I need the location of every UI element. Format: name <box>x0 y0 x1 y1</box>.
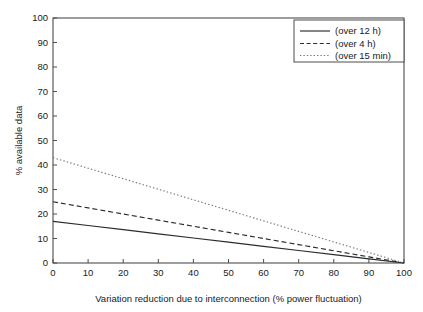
legend: (over 12 h)(over 4 h)(over 15 min) <box>294 20 404 62</box>
x-tick-label: 60 <box>258 267 269 278</box>
y-tick-label: 90 <box>37 37 48 48</box>
x-tick-label: 90 <box>364 267 375 278</box>
y-tick-label: 0 <box>43 257 48 268</box>
y-tick-label: 10 <box>37 233 48 244</box>
y-tick-label: 40 <box>37 159 48 170</box>
x-tick-label: 100 <box>396 267 412 278</box>
y-tick-label: 50 <box>37 135 48 146</box>
line-chart: 0102030405060708090100 01020304050607080… <box>0 0 423 312</box>
x-tick-label: 70 <box>293 267 304 278</box>
x-tick-label: 10 <box>83 267 94 278</box>
y-tick-label: 20 <box>37 208 48 219</box>
x-tick-label: 80 <box>329 267 340 278</box>
chart-figure: 0102030405060708090100 01020304050607080… <box>0 0 423 312</box>
legend-label: (over 12 h) <box>335 25 381 36</box>
series-line-solid <box>53 221 404 263</box>
x-tick-label: 30 <box>153 267 164 278</box>
legend-label: (over 4 h) <box>335 38 376 49</box>
x-axis-ticks: 0102030405060708090100 <box>50 259 412 278</box>
y-tick-label: 80 <box>37 61 48 72</box>
series-line-dashed <box>53 202 404 263</box>
y-axis-title: % available data <box>13 105 24 175</box>
x-tick-label: 50 <box>223 267 234 278</box>
y-tick-label: 100 <box>32 12 48 23</box>
x-axis-title: Variation reduction due to interconnecti… <box>95 293 362 304</box>
legend-label: (over 15 min) <box>335 50 391 61</box>
series-line-dotted <box>53 158 404 263</box>
y-tick-label: 70 <box>37 86 48 97</box>
data-series-group <box>53 158 404 263</box>
y-tick-label: 30 <box>37 184 48 195</box>
y-tick-label: 60 <box>37 110 48 121</box>
x-tick-label: 20 <box>118 267 129 278</box>
x-tick-label: 0 <box>50 267 55 278</box>
x-tick-label: 40 <box>188 267 199 278</box>
